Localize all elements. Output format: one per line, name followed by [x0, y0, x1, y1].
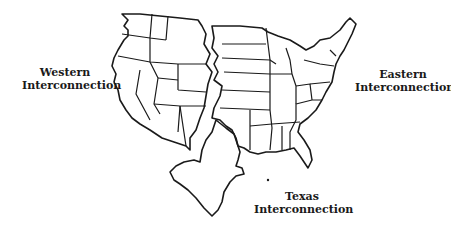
texas-interconnection-region	[170, 120, 244, 216]
texas-interconnection-label: Texas Interconnection	[254, 190, 350, 216]
eastern-interconnection-region	[212, 18, 356, 168]
texas-label-line1: Texas	[254, 190, 350, 203]
texas-label-line2: Interconnection	[254, 203, 350, 216]
eastern-label-line2: Interconnection	[355, 81, 451, 94]
western-interconnection-region	[112, 14, 212, 150]
marker-dot	[267, 179, 269, 181]
eastern-label-line1: Eastern	[355, 68, 451, 81]
western-interconnection-label: Western Interconnection	[22, 66, 108, 92]
us-interconnection-map	[0, 0, 451, 236]
western-label-line2: Interconnection	[22, 79, 108, 92]
eastern-interconnection-label: Eastern Interconnection	[355, 68, 451, 94]
western-label-line1: Western	[22, 66, 108, 79]
